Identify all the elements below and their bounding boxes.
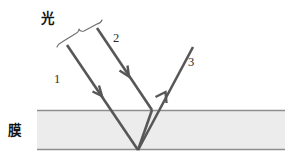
thin-film-diagram: 光 膜 1 2 3 [0,0,285,165]
film-layer-group [37,110,285,150]
ray-2-group [97,28,152,110]
ray-2-line [97,28,152,110]
ray-1-label: 1 [54,72,60,86]
light-label: 光 [40,10,55,26]
ray-2-label: 2 [113,31,119,45]
diagram-canvas: 光 膜 1 2 3 [0,0,285,165]
film-layer-body [37,110,285,150]
light-beam-brace-icon [57,20,102,47]
film-label: 膜 [8,122,22,138]
ray-3-label: 3 [188,55,194,69]
